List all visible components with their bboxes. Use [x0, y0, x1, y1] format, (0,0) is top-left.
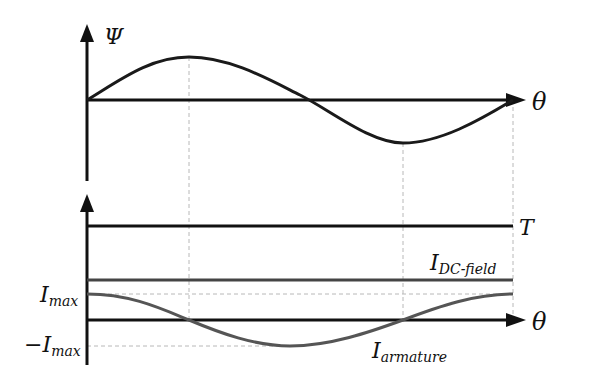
waveform-diagram: Ψ θ T IDC-field θ Iarmature Imax −Imax [0, 0, 599, 391]
armature-label: Iarmature [371, 338, 447, 365]
bottom-x-arrow-icon [506, 313, 526, 327]
bottom-y-arrow-icon [80, 194, 94, 212]
bottom-plot: T IDC-field θ Iarmature Imax −Imax [24, 194, 547, 365]
top-x-arrow-icon [506, 93, 526, 107]
torque-label: T [519, 215, 536, 240]
neg-imax-label: −Imax [24, 332, 81, 359]
bottom-theta-label: θ [532, 308, 547, 336]
dc-field-label: IDC-field [429, 250, 496, 277]
top-theta-label: θ [532, 88, 547, 116]
imax-label: Imax [39, 282, 78, 309]
top-plot: Ψ θ [80, 24, 547, 181]
psi-label: Ψ [104, 24, 124, 49]
top-y-arrow-icon [80, 24, 94, 42]
